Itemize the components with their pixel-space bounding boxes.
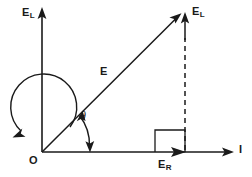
label-resultant-vector: E: [100, 66, 107, 77]
label-horizontal-axis: I: [239, 144, 242, 155]
phasor-diagram-canvas: [0, 0, 252, 177]
label-origin: O: [29, 155, 38, 166]
label-horizontal-component: ER: [158, 159, 171, 170]
resultant-vector-arrowhead: [169, 13, 181, 23]
horizontal-axis: [42, 148, 234, 157]
vertical-axis: [38, 7, 47, 152]
right-angle-marker: [155, 130, 185, 152]
resultant-vector: [42, 13, 182, 152]
phasor-diagram: EL EL E θ ER O I: [0, 0, 252, 177]
label-vertical-axis: EL: [22, 7, 34, 18]
vertical-component-arrow: [181, 12, 189, 40]
label-resultant-tip: EL: [192, 6, 204, 17]
label-angle-theta: θ: [80, 110, 86, 122]
